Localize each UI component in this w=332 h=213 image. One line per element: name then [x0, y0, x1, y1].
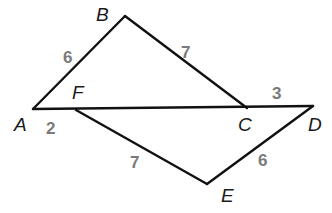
edge-fe	[76, 110, 207, 184]
vertex-labels: A B F C D E	[13, 4, 322, 206]
length-label-ed: 6	[258, 151, 267, 170]
vertex-label-e: E	[221, 185, 234, 206]
length-label-cd: 3	[272, 84, 281, 103]
vertex-label-d: D	[308, 114, 322, 135]
edge-ad	[33, 106, 313, 109]
vertex-label-a: A	[13, 114, 27, 135]
vertex-label-b: B	[96, 4, 109, 25]
edge-ed	[207, 106, 313, 184]
length-label-af: 2	[46, 119, 55, 138]
vertex-label-f: F	[72, 82, 85, 103]
length-label-fe: 7	[130, 153, 139, 172]
length-label-ab: 6	[63, 48, 72, 67]
edge-bc	[125, 16, 247, 108]
length-label-bc: 7	[181, 43, 190, 62]
geometry-diagram: A B F C D E 6 7 7 6 2 3	[0, 0, 332, 213]
vertex-label-c: C	[238, 114, 252, 135]
